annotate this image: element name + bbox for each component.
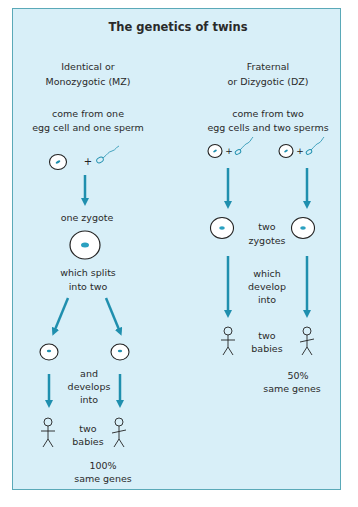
down-arrow-icon [54, 298, 68, 332]
sperm-icon [234, 137, 253, 155]
egg-cell-icon [279, 145, 293, 158]
stick-figure-icon [221, 327, 235, 355]
plus-sign: + [84, 156, 92, 167]
stick-figure-icon [112, 418, 126, 447]
zygote-icon [70, 231, 100, 259]
diagram-graphics: + + [0, 0, 358, 507]
egg-cell-icon [208, 145, 222, 158]
plus-sign: + [225, 146, 233, 156]
sperm-icon [305, 137, 324, 155]
egg-cell-icon [111, 344, 129, 360]
plus-sign: + [296, 146, 304, 156]
egg-cell-icon [40, 344, 58, 360]
egg-cell-icon [50, 155, 67, 170]
zygote-icon [211, 218, 234, 239]
down-arrow-icon [106, 298, 120, 332]
sperm-icon [96, 146, 119, 164]
stick-figure-icon [41, 418, 55, 447]
stick-figure-icon [300, 327, 314, 355]
zygote-icon [292, 218, 315, 239]
